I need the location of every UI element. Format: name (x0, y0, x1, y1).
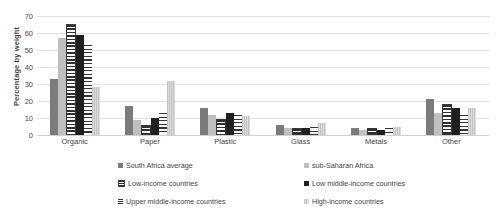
bar[interactable] (50, 79, 58, 135)
x-axis-category-label: Organic (37, 137, 112, 146)
legend-swatch-icon (118, 163, 123, 168)
bar[interactable] (310, 127, 318, 136)
bar-group (414, 16, 489, 135)
y-axis-tick-label: 60 (25, 29, 33, 38)
bar[interactable] (151, 118, 159, 135)
bar-group (112, 16, 187, 135)
y-axis-tick-label: 70 (25, 12, 33, 21)
chart-legend: South Africa averagesub-Saharan AfricaLo… (118, 156, 490, 210)
bar[interactable] (58, 38, 66, 135)
bar[interactable] (292, 128, 302, 135)
y-axis-tick-label: 10 (25, 114, 33, 123)
bar[interactable] (125, 106, 133, 135)
bar[interactable] (84, 45, 92, 135)
y-axis-tick-label: 40 (25, 63, 33, 72)
bar[interactable] (242, 116, 250, 135)
bar-groups (37, 16, 489, 135)
x-axis-category-label: Glass (263, 137, 338, 146)
x-axis-category-label: Plastic (188, 137, 263, 146)
y-axis-tick-label: 30 (25, 80, 33, 89)
legend-item[interactable]: sub-Saharan Africa (304, 156, 490, 174)
x-axis-category-label: Other (414, 137, 489, 146)
legend-label: South Africa average (126, 161, 193, 170)
bar[interactable] (92, 87, 100, 135)
bar[interactable] (377, 130, 385, 135)
bar[interactable] (76, 35, 84, 135)
bar[interactable] (159, 113, 167, 135)
bar[interactable] (385, 128, 393, 135)
bar-chart: Percentage by weight 706050403020100 Org… (0, 0, 497, 214)
legend-label: Low-income countries (128, 179, 198, 188)
bar[interactable] (302, 128, 310, 135)
bar[interactable] (434, 113, 442, 135)
bar[interactable] (452, 108, 460, 135)
bar[interactable] (426, 99, 434, 135)
bar[interactable] (318, 123, 326, 135)
y-axis-tick-label: 50 (25, 46, 33, 55)
bar[interactable] (468, 108, 476, 135)
bar[interactable] (284, 128, 292, 135)
legend-swatch-icon (304, 181, 309, 186)
bar[interactable] (367, 128, 377, 135)
bar[interactable] (167, 81, 175, 135)
legend-label: High-income countries (312, 197, 384, 206)
bar[interactable] (351, 128, 359, 135)
bar[interactable] (216, 119, 226, 135)
bar[interactable] (141, 125, 151, 136)
legend-swatch-icon (118, 199, 123, 204)
bar[interactable] (208, 115, 216, 135)
x-axis-category-label: Metals (338, 137, 413, 146)
legend-item[interactable]: Upper middle-income countries (118, 192, 304, 210)
legend-label: Upper middle-income countries (126, 197, 225, 206)
y-axis-tick-label: 20 (25, 97, 33, 106)
bar[interactable] (234, 115, 242, 135)
legend-label: sub-Saharan Africa (312, 161, 373, 170)
x-axis-category-label: Paper (112, 137, 187, 146)
legend-label: Low middle-income countries (312, 179, 405, 188)
bar-group (188, 16, 263, 135)
x-axis-labels: OrganicPaperPlasticGlassMetalsOther (37, 137, 489, 146)
bar[interactable] (200, 108, 208, 135)
bar[interactable] (226, 113, 234, 135)
bar-group (263, 16, 338, 135)
bar-group (338, 16, 413, 135)
legend-swatch-icon (118, 180, 125, 187)
y-axis-tick-label: 0 (29, 131, 33, 140)
bar[interactable] (359, 130, 367, 135)
y-axis-title: Percentage by weight (12, 7, 21, 127)
bar[interactable] (393, 127, 401, 136)
bar-group (37, 16, 112, 135)
legend-item[interactable]: Low middle-income countries (304, 174, 490, 192)
bar[interactable] (442, 104, 452, 135)
bar[interactable] (66, 24, 76, 135)
bar[interactable] (460, 115, 468, 135)
legend-item[interactable]: High-income countries (304, 192, 490, 210)
bar[interactable] (276, 125, 284, 135)
legend-swatch-icon (304, 199, 309, 204)
bar[interactable] (133, 120, 141, 135)
gridline: 0 (37, 135, 489, 136)
plot-area: 706050403020100 (37, 16, 489, 135)
legend-swatch-icon (304, 163, 309, 168)
legend-item[interactable]: South Africa average (118, 156, 304, 174)
legend-item[interactable]: Low-income countries (118, 174, 304, 192)
